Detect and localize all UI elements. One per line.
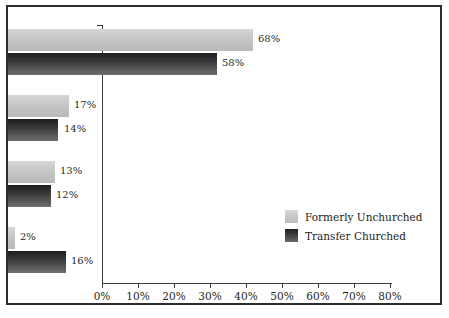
x-axis-tick: [174, 283, 175, 288]
bar-transfer-churched-other-small-groups[interactable]: [8, 119, 58, 141]
chart-figure: Sunday School 68% 58% Other Small Groups…: [0, 0, 449, 318]
bar-value-label: 12%: [56, 189, 78, 200]
x-axis-tick: [138, 283, 139, 288]
chart-legend: Formerly Unchurched Transfer Churched: [285, 208, 422, 246]
bar-transfer-churched-none[interactable]: [8, 251, 66, 273]
bar-value-label: 16%: [71, 255, 93, 266]
bar-value-label: 17%: [74, 99, 96, 110]
bar-value-label: 13%: [60, 165, 82, 176]
bar-value-label: 58%: [222, 57, 244, 68]
bar-formerly-unchurched-none[interactable]: [8, 227, 15, 249]
x-axis-line: [102, 283, 392, 284]
x-axis-tick: [390, 283, 391, 288]
bar-formerly-unchurched-other-small-groups[interactable]: [8, 95, 69, 117]
chart-frame-border: Sunday School 68% 58% Other Small Groups…: [6, 5, 442, 305]
x-axis-label-20: 20%: [154, 290, 194, 302]
x-axis-tick: [282, 283, 283, 288]
legend-swatch-icon: [285, 210, 298, 223]
x-axis-label-70: 70%: [334, 290, 374, 302]
legend-label: Formerly Unchurched: [305, 211, 422, 223]
x-axis-label-30: 30%: [190, 290, 230, 302]
x-axis-tick: [246, 283, 247, 288]
x-axis-label-80: 80%: [370, 290, 410, 302]
x-axis-tick: [102, 283, 103, 288]
x-axis-label-60: 60%: [298, 290, 338, 302]
x-axis-label-40: 40%: [226, 290, 266, 302]
legend-label: Transfer Churched: [305, 230, 406, 242]
x-axis-label-0: 0%: [82, 290, 122, 302]
x-axis-label-10: 10%: [118, 290, 158, 302]
legend-item-formerly-unchurched[interactable]: Formerly Unchurched: [285, 208, 422, 225]
bar-formerly-unchurched-sunday-school[interactable]: [8, 29, 253, 51]
x-axis-tick: [354, 283, 355, 288]
bar-value-label: 2%: [20, 231, 36, 242]
x-axis-tick: [210, 283, 211, 288]
x-axis-tick: [318, 283, 319, 288]
bar-transfer-churched-sunday-school[interactable]: [8, 53, 217, 75]
x-axis-label-50: 50%: [262, 290, 302, 302]
bar-value-label: 68%: [258, 33, 280, 44]
bar-value-label: 14%: [64, 123, 86, 134]
bar-formerly-unchurched-no-response[interactable]: [8, 161, 55, 183]
bar-transfer-churched-no-response[interactable]: [8, 185, 51, 207]
legend-swatch-icon: [285, 229, 298, 242]
y-axis-top-tick: [97, 25, 103, 26]
legend-item-transfer-churched[interactable]: Transfer Churched: [285, 227, 422, 244]
